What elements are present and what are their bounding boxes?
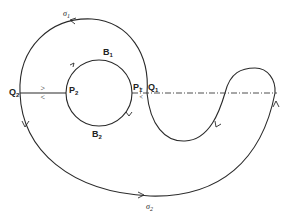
label-b1: B1 [103,47,114,58]
p1-arrow-left-icon: < [139,94,143,100]
label-p1: P1 [133,82,143,93]
label-sigma2: σ2 [146,202,153,212]
double-arrow-left-icon: < [40,93,45,102]
circle-arrow-top-icon [70,63,74,67]
orbit-diagram: > < > < σ1 σ2 B1 B2 P1 P2 Q1 Q2 [0,0,285,216]
label-b2: B2 [92,129,103,140]
label-p2: P2 [69,85,79,96]
sigma2-arc [20,93,275,196]
s-curve [147,68,275,141]
sigma1-arrow-icon [70,18,76,24]
sigma1-arc [20,19,147,93]
label-q1: Q1 [148,82,159,93]
label-q2: Q2 [9,87,20,98]
s-curve-down-arrow-icon [215,121,221,127]
right-up-arrow-icon [273,101,279,107]
double-arrow-right-icon: > [40,84,45,93]
label-sigma1: σ1 [63,9,70,19]
circle-arrow-bottom-icon [126,112,132,116]
